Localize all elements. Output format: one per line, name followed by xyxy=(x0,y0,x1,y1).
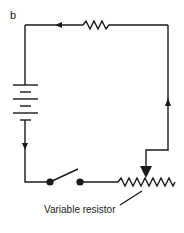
switch-terminal-right xyxy=(76,178,83,185)
arrow-up-icon xyxy=(165,98,171,106)
right-wire xyxy=(146,25,168,168)
variable-resistor-label: Variable resistor xyxy=(44,204,116,215)
panel-label: b xyxy=(10,9,16,21)
arrow-down-icon xyxy=(22,143,28,150)
left-wire-bottom xyxy=(25,120,50,182)
battery-icon xyxy=(13,85,38,120)
leader-line xyxy=(120,191,142,205)
variable-resistor-icon xyxy=(118,178,175,186)
switch-lever xyxy=(50,169,78,182)
wiper-arrow-icon xyxy=(140,166,152,178)
arrow-left-icon xyxy=(55,22,62,28)
switch-terminal-left xyxy=(46,178,53,185)
circuit-diagram: b Variable resis xyxy=(0,0,184,233)
top-resistor xyxy=(83,21,168,29)
